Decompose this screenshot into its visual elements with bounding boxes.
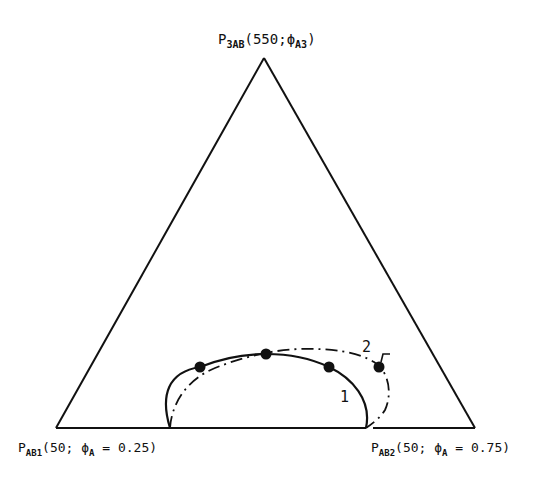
curve-2-label: 2 bbox=[362, 338, 371, 356]
triangle bbox=[56, 58, 475, 428]
curve-1-label: 1 bbox=[340, 388, 349, 406]
gamma-marker bbox=[381, 354, 390, 362]
vertex-label-top: P3AB(550;ϕA3) bbox=[218, 31, 316, 50]
ternary-diagram: 1 2 P3AB(550;ϕA3) PAB1(50; ϕA = 0.25) PA… bbox=[0, 0, 539, 484]
triangle-right-edge bbox=[264, 58, 475, 428]
data-point bbox=[324, 362, 335, 373]
data-point bbox=[195, 362, 206, 373]
data-point bbox=[374, 362, 385, 373]
triangle-left-edge bbox=[56, 58, 264, 428]
vertex-label-bottom-left: PAB1(50; ϕA = 0.25) bbox=[18, 440, 157, 458]
data-point bbox=[261, 349, 272, 360]
vertex-label-bottom-right: PAB2(50; ϕA = 0.75) bbox=[371, 440, 510, 458]
